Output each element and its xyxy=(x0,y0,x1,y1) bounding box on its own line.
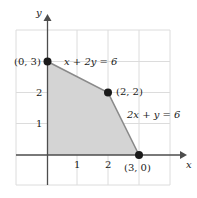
x-tick-label-1: 1 xyxy=(74,160,80,170)
y-tick-label-2: 2 xyxy=(36,88,42,98)
x-tick-label-2: 2 xyxy=(105,160,111,170)
feasible-region-shading xyxy=(48,62,140,156)
coordinate-plane xyxy=(0,0,197,198)
y-tick-label-1: 1 xyxy=(36,119,42,129)
graph-figure: y x 1 2 1 2 (0, 3) (2, 2) (3, 0) x + 2y … xyxy=(0,0,197,198)
vertex-dot-0-3 xyxy=(44,58,52,66)
x-axis-label: x xyxy=(186,160,192,170)
x-axis-arrow-icon xyxy=(180,151,187,159)
vertex-label-3-0: (3, 0) xyxy=(124,163,151,173)
y-axis-arrow-icon xyxy=(44,14,52,21)
vertex-dot-2-2 xyxy=(104,89,112,97)
equation-label-x-plus-2y: x + 2y = 6 xyxy=(64,57,118,67)
vertex-dot-3-0 xyxy=(135,151,143,159)
vertex-label-0-3: (0, 3) xyxy=(14,57,41,67)
vertex-label-2-2: (2, 2) xyxy=(116,87,143,97)
y-axis-label: y xyxy=(36,8,42,18)
equation-label-2x-plus-y: 2x + y = 6 xyxy=(127,110,181,120)
